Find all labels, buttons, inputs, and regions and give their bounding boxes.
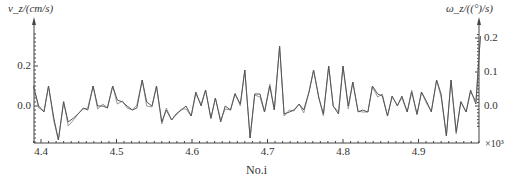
axes [32,17,481,143]
x-axis-multiplier: ×10³ [485,138,504,149]
x-tick-label: 4.8 [333,145,353,157]
right-y-tick-label: 0.0 [484,99,498,111]
left-y-tick-label: 0.0 [1,99,31,111]
right-y-axis-label: ω_z/((°)/s) [446,2,493,14]
x-tick-label: 4.9 [409,145,429,157]
x-tick-label: 4.7 [258,145,278,157]
left-y-axis-arrow-icon [32,17,36,25]
right-y-tick-label: 0.2 [484,31,498,43]
x-tick-label: 4.4 [31,145,51,157]
x-axis-label: No.i [246,163,267,178]
left-y-tick-label: 0.2 [1,59,31,71]
ticks [33,34,479,143]
x-tick-label: 4.6 [182,145,202,157]
series [33,36,480,140]
series-vz-line [33,36,480,140]
right-y-tick-label: 0.1 [484,65,498,77]
x-tick-label: 4.5 [107,145,127,157]
series-omega-z-line [33,36,480,140]
right-y-axis-arrow-icon [477,17,481,25]
left-y-axis-label: v_z/(cm/s) [8,2,53,14]
